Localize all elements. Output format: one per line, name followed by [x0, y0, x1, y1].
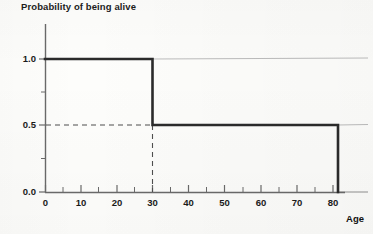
y-axis-tick-labels: 1.0 0.5 0.0 — [23, 53, 37, 197]
x-axis-tick-labels: 0 10 20 30 40 50 60 70 80 — [43, 197, 338, 208]
x-tick-label-60: 60 — [256, 197, 267, 208]
x-axis-major-ticks — [46, 185, 334, 192]
x-tick-label-50: 50 — [219, 197, 230, 208]
y-tick-label-0.5: 0.5 — [23, 119, 37, 130]
x-tick-label-10: 10 — [76, 197, 87, 208]
y-tick-label-1.0: 1.0 — [23, 53, 36, 64]
survival-curve-chart: 1.0 0.5 0.0 0 — [0, 0, 373, 234]
x-tick-label-30: 30 — [147, 197, 158, 208]
x-tick-label-80: 80 — [328, 197, 339, 208]
x-tick-label-0: 0 — [43, 197, 48, 208]
x-tick-label-20: 20 — [112, 197, 123, 208]
level-1.0-extension — [152, 58, 368, 59]
x-axis-label: Age — [346, 213, 364, 224]
y-axis-ticks — [39, 59, 45, 192]
level-0.5-extension — [338, 125, 368, 126]
y-tick-label-0.0: 0.0 — [23, 186, 36, 197]
x-tick-label-40: 40 — [183, 197, 194, 208]
reference-lines — [46, 125, 153, 192]
x-tick-label-70: 70 — [292, 197, 303, 208]
chart-page: Probability of being alive 1.0 0.5 0.0 — [0, 0, 373, 234]
survival-step-curve — [45, 59, 338, 192]
